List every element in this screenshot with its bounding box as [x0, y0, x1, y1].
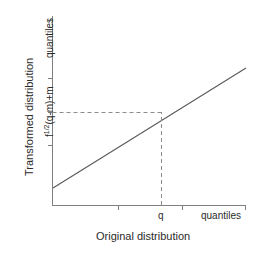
y-axis-unit-label: quantiles — [45, 18, 55, 58]
qq-transform-diagram: Transformed distribution quantiles f1/2(… — [0, 0, 268, 257]
x-axis-tick-label-q: q — [158, 211, 164, 221]
y-axis-title: Transformed distribution — [24, 58, 35, 176]
x-axis-unit-label: quantiles — [201, 211, 241, 221]
y-axis-tick-label: f1/2(q-m)+m — [45, 86, 55, 137]
y-tick-suffix: (q-m)+m — [44, 86, 55, 124]
x-axis-title: Original distribution — [96, 231, 190, 242]
y-tick-base: f — [44, 134, 55, 137]
transform-line — [53, 68, 246, 188]
y-tick-exponent: 1/2 — [43, 124, 50, 134]
